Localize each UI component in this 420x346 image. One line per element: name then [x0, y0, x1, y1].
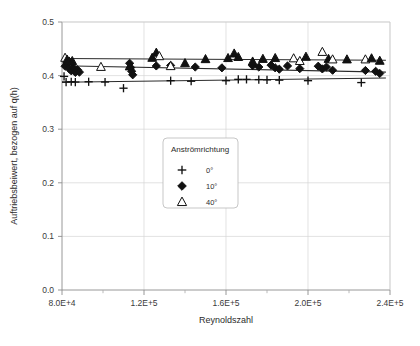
legend-entry-label: 0° [206, 166, 213, 175]
x-tick-label: 1.2E+5 [130, 298, 157, 308]
chart-container: 8.0E+41.2E+51.6E+52.0E+52.4E+5 0.00.10.2… [0, 0, 420, 346]
y-tick-label: 0.4 [42, 71, 54, 81]
x-tick-label: 1.6E+5 [212, 298, 239, 308]
lift-coefficient-scatter-chart: 8.0E+41.2E+51.6E+52.0E+52.4E+5 0.00.10.2… [0, 0, 420, 346]
x-tick-label: 2.4E+5 [376, 298, 403, 308]
y-axis-title: Auftriebsbeiwert, bezogen auf q(h) [9, 87, 19, 225]
y-tick-label: 0.0 [42, 285, 54, 295]
x-axis-title: Reynoldszahl [199, 315, 253, 325]
legend-entry-label: 40° [206, 198, 217, 207]
y-tick-label: 0.3 [42, 124, 54, 134]
y-tick-label: 0.5 [42, 17, 54, 27]
chart-legend: Anströmrichtung0°10°40° [163, 138, 238, 208]
y-tick-label: 0.1 [42, 231, 54, 241]
y-tick-label: 0.2 [42, 178, 54, 188]
x-tick-label: 8.0E+4 [48, 298, 75, 308]
legend-title: Anströmrichtung [171, 145, 229, 154]
x-tick-label: 2.0E+5 [294, 298, 321, 308]
legend-entry-label: 10° [206, 182, 217, 191]
